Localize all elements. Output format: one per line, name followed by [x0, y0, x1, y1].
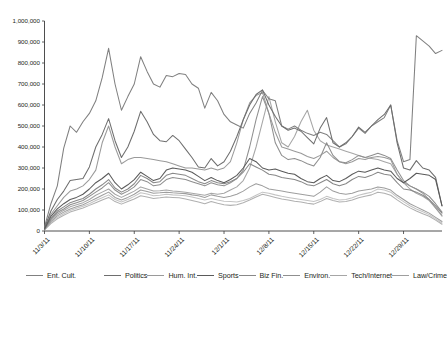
y-axis-tick-label: 300,000 — [18, 164, 41, 171]
y-axis-tick-label: 1,000,000 — [12, 17, 40, 24]
y-axis-tick-label: 100,000 — [18, 206, 41, 213]
legend-item-label: Ent. Cult. — [47, 271, 76, 280]
legend-item[interactable]: Environ. — [283, 268, 330, 284]
y-axis-tick-label: 800,000 — [18, 59, 41, 66]
legend-item[interactable]: Tech/Internet — [330, 268, 392, 284]
x-axis-labels-group: 11/3/1111/10/1111/17/1111/24/1112/1/1112… — [31, 236, 410, 259]
legend-item-label: Sports — [218, 271, 238, 280]
chart-legend: Ent. Cult.PoliticsHum. Int.SportsBiz Fin… — [26, 268, 326, 284]
legend-color-swatch — [197, 275, 214, 276]
y-axis-tick-group: 0100,000200,000300,000400,000500,000600,… — [12, 17, 44, 234]
legend-item-label: Hum. Int. — [168, 271, 197, 280]
chart-plot-area: 0100,000200,000300,000400,000500,000600,… — [0, 0, 447, 356]
y-axis-tick-label: 200,000 — [18, 185, 41, 192]
legend-color-swatch — [392, 275, 409, 276]
x-axis-tick-label: 12/29/11 — [387, 236, 410, 259]
x-axis-tick-label: 11/17/11 — [118, 236, 141, 259]
x-axis-tick-label: 12/15/11 — [297, 236, 320, 259]
legend-item[interactable]: Hum. Int. — [147, 268, 197, 284]
line-chart-figure: 0100,000200,000300,000400,000500,000600,… — [0, 0, 447, 356]
y-axis-tick-label: 600,000 — [18, 101, 41, 108]
y-axis-tick-label: 0 — [37, 227, 41, 234]
x-axis-tick-label: 11/3/11 — [31, 236, 51, 256]
x-axis-tick-label: 12/1/11 — [210, 236, 230, 256]
legend-item[interactable]: Politics — [104, 268, 147, 284]
legend-item-label: Law/Crime — [413, 271, 447, 280]
series-line-health-med-pharma — [45, 189, 443, 230]
legend-color-swatch — [147, 275, 164, 276]
series-line-ent-cult — [45, 36, 443, 227]
y-axis-tick-label: 700,000 — [18, 80, 41, 87]
legend-color-swatch — [104, 275, 121, 276]
legend-item-label: Politics — [125, 271, 147, 280]
legend-item[interactable]: Biz Fin. — [239, 268, 284, 284]
y-axis-tick-label: 500,000 — [18, 122, 41, 129]
legend-color-swatch — [283, 275, 300, 276]
legend-item[interactable]: Law/Crime — [392, 268, 447, 284]
legend-item-label: Tech/Internet — [351, 271, 392, 280]
legend-color-swatch — [330, 275, 347, 276]
x-axis-tick-label: 11/24/11 — [163, 236, 186, 259]
legend-color-swatch — [239, 275, 256, 276]
legend-color-swatch — [26, 275, 43, 276]
x-axis-tick-label: 12/8/11 — [255, 236, 275, 256]
legend-item-label: Environ. — [304, 271, 330, 280]
series-line-hospity-recrea — [45, 192, 443, 230]
y-axis-tick-label: 900,000 — [18, 38, 41, 45]
series-line-hum-int — [45, 92, 443, 228]
x-axis-tick-label: 11/10/11 — [73, 236, 96, 259]
series-line-politics — [45, 90, 443, 228]
series-lines-group — [45, 36, 443, 230]
x-axis-tick-label: 12/22/11 — [342, 236, 365, 259]
legend-item[interactable]: Sports — [197, 268, 238, 284]
legend-item[interactable]: Ent. Cult. — [26, 268, 104, 284]
legend-item-label: Biz Fin. — [260, 271, 284, 280]
y-axis-tick-label: 400,000 — [18, 143, 41, 150]
